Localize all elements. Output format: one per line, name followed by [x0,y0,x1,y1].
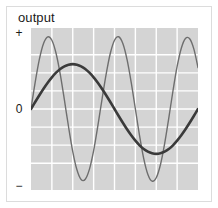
y-tick-positive: + [9,28,29,38]
y-tick-negative: − [9,181,29,191]
plot-area [31,28,198,190]
y-tick-zero: 0 [9,104,29,114]
waveform-figure: output + 0 − [0,0,218,208]
plot-canvas [31,28,198,190]
axis-title: output [18,11,55,25]
